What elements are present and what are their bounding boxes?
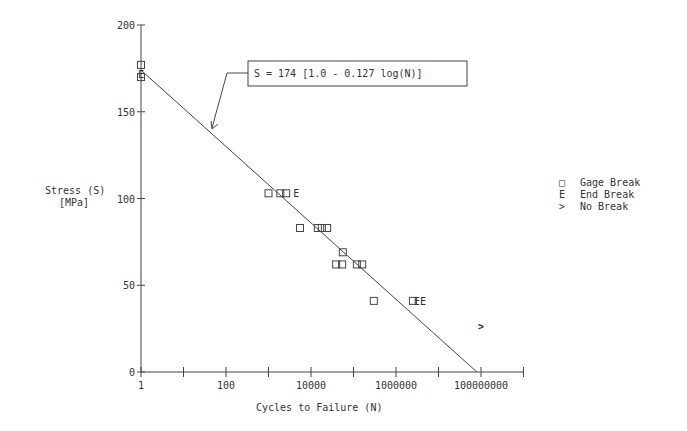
- square-marker-icon: □: [556, 177, 568, 189]
- svg-text:100: 100: [217, 380, 235, 391]
- equation-text: S = 174 [1.0 - 0.127 log(N)]: [254, 68, 423, 79]
- svg-text:150: 150: [117, 107, 135, 118]
- y-axis-units: [MPa]: [59, 197, 89, 208]
- legend-item-gage-break: □ Gage Break: [556, 177, 640, 189]
- x-axis-label: Cycles to Failure (N): [256, 402, 382, 413]
- legend-item-end-break: E End Break: [556, 189, 640, 201]
- svg-text:E: E: [420, 296, 426, 307]
- e-marker-icon: E: [556, 189, 568, 201]
- svg-text:10000: 10000: [296, 380, 326, 391]
- svg-text:E: E: [138, 69, 144, 80]
- legend-item-no-break: > No Break: [556, 201, 640, 213]
- svg-text:1: 1: [138, 380, 144, 391]
- svg-text:100: 100: [117, 194, 135, 205]
- svg-text:0: 0: [129, 367, 135, 378]
- svg-text:100000000: 100000000: [454, 380, 508, 391]
- arrow-marker-icon: >: [556, 201, 568, 213]
- svg-text:E: E: [293, 188, 299, 199]
- sn-chart: 0501001502001100100001000000100000000 EE…: [0, 0, 687, 431]
- svg-text:50: 50: [123, 280, 135, 291]
- fit-line: [141, 70, 477, 372]
- equation-annotation: S = 174 [1.0 - 0.127 log(N)]: [211, 61, 467, 129]
- svg-text:>: >: [478, 321, 484, 332]
- legend: □ Gage Break E End Break > No Break: [556, 177, 640, 213]
- svg-text:1000000: 1000000: [375, 380, 417, 391]
- y-axis-label: Stress (S): [45, 185, 105, 196]
- data-points: EEEE>: [138, 61, 485, 332]
- svg-text:200: 200: [117, 20, 135, 31]
